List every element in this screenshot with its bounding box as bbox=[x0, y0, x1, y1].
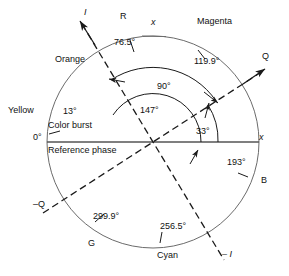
marker-label-magenta: Magenta bbox=[197, 17, 232, 26]
diagram-canvas bbox=[0, 0, 289, 276]
q-axis-label: Q bbox=[262, 52, 269, 61]
i-axis-neg-label: – I bbox=[222, 250, 232, 259]
x-axis-right-label: x bbox=[259, 133, 264, 142]
marker-label-blue: B bbox=[261, 176, 267, 185]
tick-blue bbox=[238, 173, 248, 177]
q-axis-neg-label: –Q bbox=[33, 200, 45, 209]
marker-angle-red: 76.5° bbox=[114, 38, 135, 47]
extra-label-orange: Orange bbox=[55, 55, 85, 64]
reference-phase-label: Reference phase bbox=[48, 146, 117, 155]
x-axis-top-label: x bbox=[151, 18, 156, 27]
phase-diagram-figure: I R 76.5° x Magenta 119.9° Q Orange 90° … bbox=[0, 0, 289, 276]
angle-147-arc bbox=[113, 94, 201, 142]
i-axis-label: I bbox=[84, 8, 87, 17]
color-burst-label: Color burst bbox=[48, 121, 92, 130]
tick-x-top bbox=[142, 36, 166, 37]
marker-angle-yellow: 13° bbox=[63, 107, 77, 116]
q-axis-arrow bbox=[243, 69, 265, 84]
marker-label-cyan: Cyan bbox=[157, 251, 178, 260]
marker-label-green: G bbox=[88, 239, 95, 248]
angle-147-arrow bbox=[190, 150, 198, 164]
marker-angle-magenta: 119.9° bbox=[194, 57, 219, 66]
angle-33-label: 33° bbox=[196, 127, 210, 136]
tick-cyan bbox=[160, 232, 162, 243]
angle-33-arc bbox=[208, 105, 218, 142]
reference-zero-label: 0° bbox=[33, 133, 42, 142]
marker-angle-blue: 193° bbox=[227, 158, 246, 167]
angle-90-label: 90° bbox=[157, 82, 171, 91]
angle-33-arrow bbox=[205, 103, 209, 118]
marker-angle-green: 299.9° bbox=[93, 212, 119, 221]
i-axis-arrow bbox=[80, 21, 95, 45]
tick-yellow bbox=[49, 131, 60, 134]
marker-angle-cyan: 256.5° bbox=[160, 222, 186, 231]
marker-label-red: R bbox=[120, 12, 127, 21]
angle-147-label: 147° bbox=[140, 106, 159, 115]
marker-label-yellow: Yellow bbox=[8, 106, 34, 115]
